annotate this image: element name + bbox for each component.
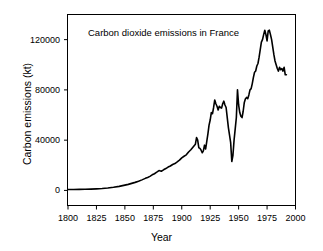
chart-title: Carbon dioxide emissions in France xyxy=(88,27,239,38)
x-axis-ticks xyxy=(68,206,296,210)
y-axis-label: Carbon emissions (kt) xyxy=(21,39,33,189)
x-tick-label: 1975 xyxy=(257,213,277,223)
y-tick-label: 40000 xyxy=(0,135,60,145)
x-tick-label: 1925 xyxy=(200,213,220,223)
chart-figure: Carbon dioxide emissions in France Carbo… xyxy=(0,0,323,251)
x-tick-label: 1875 xyxy=(143,213,163,223)
x-tick-label: 1800 xyxy=(58,213,78,223)
x-tick-label: 2000 xyxy=(285,213,305,223)
x-tick-label: 1900 xyxy=(172,213,192,223)
x-tick-label: 1950 xyxy=(229,213,249,223)
x-tick-label: 1850 xyxy=(115,213,135,223)
y-tick-label: 120000 xyxy=(0,35,60,45)
y-tick-label: 80000 xyxy=(0,85,60,95)
emissions-line-series xyxy=(68,30,286,189)
x-axis-label: Year xyxy=(0,231,323,243)
x-tick-label: 1825 xyxy=(86,213,106,223)
y-tick-label: 0 xyxy=(0,185,60,195)
